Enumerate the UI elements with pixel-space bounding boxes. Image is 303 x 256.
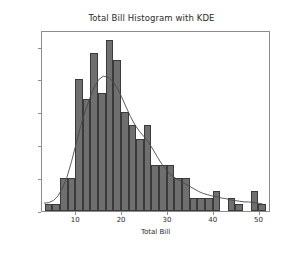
histogram-bar [213, 191, 221, 211]
histogram-bar [136, 139, 144, 211]
histogram-bar [75, 79, 83, 211]
x-tick-mark [167, 212, 168, 215]
y-tick-mark [38, 212, 41, 213]
histogram-bar [106, 40, 114, 211]
histogram-figure: Total Bill Histogram with KDE Frequency … [0, 0, 303, 256]
histogram-bar [205, 198, 213, 211]
histogram-bar [251, 191, 259, 211]
histogram-bar [90, 53, 98, 211]
histogram-bar [228, 198, 236, 211]
histogram-bar [60, 178, 68, 211]
chart-title: Total Bill Histogram with KDE [0, 13, 303, 23]
histogram-bar [182, 178, 190, 211]
histogram-bar [113, 60, 121, 211]
histogram-bar [98, 93, 106, 211]
histogram-bar [190, 198, 198, 211]
histogram-bars [42, 32, 269, 211]
histogram-bar [144, 125, 152, 211]
histogram-bar [45, 204, 53, 211]
histogram-bar [167, 165, 175, 211]
histogram-bar [121, 112, 129, 211]
histogram-bar [151, 165, 159, 211]
x-tick-label: 20 [110, 216, 132, 224]
histogram-bar [83, 99, 91, 211]
histogram-bar [68, 178, 76, 211]
x-axis-label: Total Bill [41, 228, 270, 236]
x-tick-label: 50 [248, 216, 270, 224]
x-tick-mark [121, 212, 122, 215]
x-tick-label: 30 [156, 216, 178, 224]
histogram-bar [258, 204, 266, 211]
histogram-bar [235, 204, 243, 211]
plot-area [41, 31, 270, 212]
histogram-bar [52, 204, 60, 211]
x-tick-mark [259, 212, 260, 215]
x-tick-label: 10 [64, 216, 86, 224]
histogram-bar [159, 165, 167, 211]
histogram-bar [197, 198, 205, 211]
histogram-bar [174, 178, 182, 211]
histogram-bar [129, 125, 137, 211]
x-tick-label: 40 [202, 216, 224, 224]
x-tick-mark [213, 212, 214, 215]
x-tick-mark [75, 212, 76, 215]
